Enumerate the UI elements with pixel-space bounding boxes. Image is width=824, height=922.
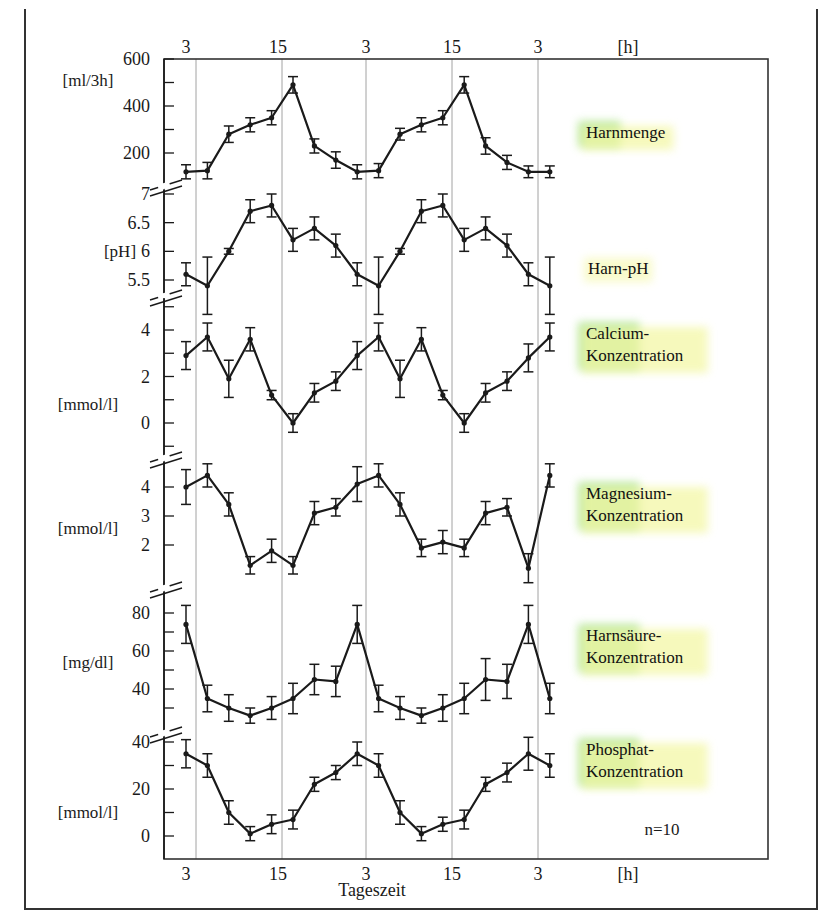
y-tick-label: 0 [141,826,150,846]
data-point [183,169,188,174]
data-point [462,237,467,242]
data-point [504,505,509,510]
y-unit-label: [ml/3h] [63,71,114,90]
data-point [333,379,338,384]
y-tick-label: 4 [141,320,150,340]
panel-title: Konzentration [586,506,684,525]
x-unit-bottom: [h] [618,864,639,884]
x-tick-top: 3 [182,37,191,57]
data-point [483,143,488,148]
x-tick-bottom: 3 [534,864,543,884]
data-point [183,353,188,358]
data-point [504,160,509,165]
data-point [183,622,188,627]
data-point [248,122,253,127]
data-point [419,831,424,836]
data-point [312,677,317,682]
data-point [397,705,402,710]
data-point [290,82,295,87]
panel-title: Konzentration [586,648,684,667]
data-point [355,482,360,487]
data-point [547,169,552,174]
data-point [248,209,253,214]
series-1 [181,194,555,314]
data-point [312,143,317,148]
plot-box [164,59,768,859]
data-point [419,122,424,127]
highlighter-marks [578,121,708,789]
panel-title: Harn-pH [588,259,648,278]
data-point [333,505,338,510]
data-point [183,484,188,489]
panel-title: Harnmenge [586,123,665,142]
panel-title: Magnesium- [586,484,672,503]
x-unit-top: [h] [618,37,639,57]
y-unit-label: [mg/dl] [63,653,114,672]
series-5 [181,737,555,840]
data-point [205,334,210,339]
series-0 [181,77,555,179]
data-point [462,817,467,822]
data-point [312,390,317,395]
data-point [376,763,381,768]
data-point [205,283,210,288]
chart-canvas: 33151533151533[h][h]Tageszeit600400200[m… [0,0,824,922]
y-tick-label: 600 [123,49,150,69]
y-tick-label: 7 [141,184,150,204]
data-point [376,696,381,701]
data-point [183,751,188,756]
data-point [290,817,295,822]
sample-size-label: n=10 [644,820,679,839]
data-point [376,334,381,339]
data-point [269,548,274,553]
data-point [419,337,424,342]
data-point [269,705,274,710]
y-tick-label: 400 [123,96,150,116]
data-point [440,822,445,827]
data-point [440,393,445,398]
y-unit-label: [mmol/l] [58,803,118,822]
data-point [376,168,381,173]
data-point [333,157,338,162]
data-point [440,203,445,208]
y-unit-label: [mmol/l] [58,395,118,414]
data-point [312,510,317,515]
data-point [355,353,360,358]
panel-title: Konzentration [586,346,684,365]
series-4 [181,605,555,723]
data-point [483,510,488,515]
data-point [205,473,210,478]
data-point [483,677,488,682]
data-point [205,168,210,173]
data-point [290,696,295,701]
data-point [462,420,467,425]
panel-title: Konzentration [586,762,684,781]
y-tick-label: 40 [132,679,150,699]
x-tick-top: 3 [362,37,371,57]
y-unit-label: [pH] [104,242,136,261]
data-point [376,473,381,478]
labels: 33151533151533[h][h]Tageszeit600400200[m… [58,37,684,900]
data-point [526,355,531,360]
data-point [504,243,509,248]
data-point [483,782,488,787]
series-3 [181,464,555,583]
data-point [462,82,467,87]
data-point [526,169,531,174]
y-tick-label: 20 [132,779,150,799]
data-point [333,679,338,684]
data-point [397,502,402,507]
data-point [440,540,445,545]
data-point [312,226,317,231]
data-point [547,473,552,478]
data-point [226,810,231,815]
data-point [269,203,274,208]
data-point [547,763,552,768]
data-point [526,566,531,571]
y-tick-label: 2 [141,367,150,387]
data-point [248,831,253,836]
y-tick-label: 80 [132,603,150,623]
data-point [397,132,402,137]
data-point [355,272,360,277]
data-point [355,169,360,174]
